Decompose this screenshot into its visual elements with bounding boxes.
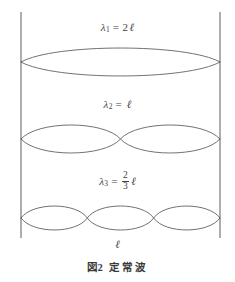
- wave-3-subscript: 3: [104, 180, 108, 188]
- wave-3-label: λ3 = 2 3 ℓ: [0, 171, 235, 192]
- wave-1-curves: [21, 48, 220, 76]
- wave-1-label: λ1 = 2 ℓ: [0, 22, 235, 33]
- wave-2-lambda-symbol: λ: [104, 99, 109, 110]
- wave-2-lower-curve: [21, 125, 220, 153]
- wave-3-fraction-denominator: 3: [122, 182, 129, 192]
- wave-3-unit: ℓ: [131, 176, 136, 187]
- wave-3-curves: [21, 206, 220, 230]
- wave-2-equals: =: [116, 99, 122, 110]
- wave-3-fraction-numerator: 2: [122, 171, 129, 181]
- dimension-length-label: ℓ: [0, 238, 235, 250]
- wave-2-curves: [21, 125, 220, 153]
- wave-3-lower-curve: [21, 206, 220, 230]
- caption-number: 2: [97, 262, 103, 273]
- figure-caption: 図2定常波: [0, 259, 235, 274]
- wave-3-upper-curve: [21, 206, 220, 230]
- wave-1-upper-curve: [21, 48, 220, 62]
- wave-3-fraction: 2 3: [122, 171, 129, 192]
- wave-1-subscript: 1: [106, 26, 110, 34]
- wave-2-unit: ℓ: [127, 99, 132, 110]
- caption-text: 定常波: [109, 261, 148, 273]
- wave-2-subscript: 2: [109, 103, 113, 111]
- standing-wave-figure: λ1 = 2 ℓ λ2 = ℓ λ3 = 2 3 ℓ ℓ 図2定常波: [0, 0, 235, 282]
- wave-3-equals: =: [111, 176, 117, 187]
- wave-2-label: λ2 = ℓ: [0, 99, 235, 110]
- wave-3-lambda-symbol: λ: [99, 176, 104, 187]
- dimension-length-value: ℓ: [110, 238, 125, 250]
- wave-1-lower-curve: [21, 62, 220, 76]
- wave-1-lambda-symbol: λ: [101, 22, 106, 33]
- wave-1-coefficient: 2: [123, 22, 129, 33]
- wave-1-unit: ℓ: [130, 22, 135, 33]
- wave-1-equals: =: [113, 22, 119, 33]
- caption-prefix: 図: [87, 261, 98, 273]
